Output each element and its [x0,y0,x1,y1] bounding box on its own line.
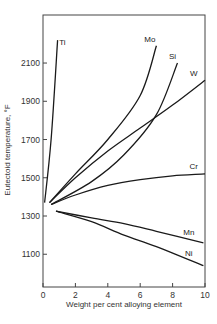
y-tick-label: 1300 [21,211,40,221]
plot-frame [43,15,205,287]
x-tick-label: 4 [105,290,110,300]
label-mo: Mo [144,35,156,44]
y-axis-title: Eutectoid temperature, °F [3,104,12,195]
x-axis-ticks: 0246810 [41,283,210,300]
curve-ni [56,211,203,266]
x-tick-label: 10 [200,290,210,300]
y-tick-label: 1900 [21,96,40,106]
series-curves [45,40,205,266]
y-tick-label: 1700 [21,135,40,145]
x-tick-label: 6 [138,290,143,300]
label-w: W [190,69,198,78]
y-tick-label: 1100 [22,249,41,259]
label-ni: Ni [185,249,193,258]
y-tick-label: 1500 [21,173,40,183]
x-tick-label: 0 [41,290,46,300]
y-tick-label: 2100 [21,58,40,68]
curve-mn [56,211,203,243]
x-tick-label: 2 [73,290,78,300]
x-tick-label: 8 [170,290,175,300]
label-cr: Cr [189,162,198,171]
eutectoid-temperature-chart: 110013001500170019002100 0246810 TiMoSiW… [0,0,217,324]
label-si: Si [169,52,176,61]
x-axis-title: Weight per cent alloying element [66,300,183,309]
label-mn: Mn [183,228,194,237]
label-ti: Ti [59,38,66,47]
curve-w [50,80,206,202]
